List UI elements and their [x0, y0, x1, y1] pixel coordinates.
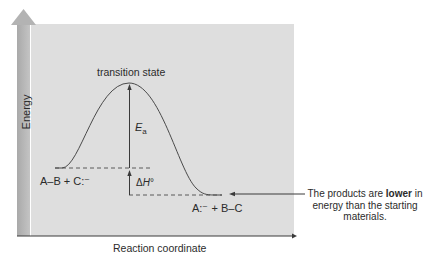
reactants-label: A–B + C:⁻: [40, 175, 90, 188]
activation-energy-label: Ea: [135, 121, 147, 136]
x-axis-label: Reaction coordinate: [113, 242, 206, 254]
products-annotation: The products are lower in energy than th…: [304, 188, 426, 223]
transition-state-label: transition state: [97, 66, 165, 78]
y-axis-label: Energy: [20, 82, 32, 142]
energy-diagram: transition state Ea ΔH° A–B + C:⁻ A:⁻ + …: [0, 0, 426, 258]
products-label: A:⁻ + B–C: [192, 202, 242, 215]
enthalpy-label: ΔH°: [136, 177, 154, 188]
